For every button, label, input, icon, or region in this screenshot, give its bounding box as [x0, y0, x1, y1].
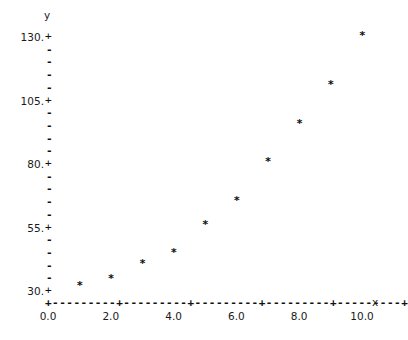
x-axis-title: x	[372, 297, 378, 308]
y-axis-tick-label: 80.	[6, 159, 44, 170]
y-axis-minor-tick: -	[46, 260, 53, 271]
x-axis-tick-label: 10.0	[342, 311, 382, 322]
data-point: *	[108, 273, 115, 284]
y-axis-tick-label: 55.	[6, 223, 44, 234]
data-point: *	[233, 195, 240, 206]
x-axis-line: +---------+---------+---------+---------…	[45, 297, 408, 308]
x-axis-tick-label: 4.0	[154, 311, 194, 322]
y-axis-title: y	[44, 10, 50, 21]
y-axis-minor-tick: -	[46, 82, 53, 93]
data-point: *	[202, 219, 209, 230]
data-point: *	[359, 30, 366, 41]
y-axis-minor-tick: -	[46, 171, 53, 182]
y-axis-minor-tick: -	[46, 107, 53, 118]
data-point: *	[328, 79, 335, 90]
y-axis-minor-tick: -	[46, 196, 53, 207]
data-point: *	[296, 118, 303, 129]
data-point: *	[139, 258, 146, 269]
y-axis-minor-tick: -	[46, 247, 53, 258]
x-axis-tick-label: 8.0	[279, 311, 319, 322]
y-axis-major-tick: +	[45, 285, 52, 296]
y-axis-minor-tick: -	[46, 209, 53, 220]
y-axis-minor-tick: -	[46, 183, 53, 194]
x-axis-tick-label: 2.0	[91, 311, 131, 322]
x-axis-tick-label: 6.0	[216, 311, 256, 322]
y-axis-minor-tick: -	[46, 272, 53, 283]
y-axis-major-tick: +	[45, 95, 52, 106]
x-axis-tick-label: 0.0	[28, 311, 68, 322]
y-axis-minor-tick: -	[46, 44, 53, 55]
y-axis-minor-tick: -	[46, 145, 53, 156]
data-point: *	[76, 280, 83, 291]
data-point: *	[265, 156, 272, 167]
y-axis-minor-tick: -	[46, 234, 53, 245]
y-axis-major-tick: +	[45, 222, 52, 233]
y-axis-minor-tick: -	[46, 56, 53, 67]
y-axis-tick-label: 130.	[6, 32, 44, 43]
y-axis-tick-label: 30.	[6, 286, 44, 297]
y-axis-minor-tick: -	[46, 69, 53, 80]
y-axis-tick-label: 105.	[6, 96, 44, 107]
y-axis-major-tick: +	[45, 158, 52, 169]
y-axis-major-tick: +	[45, 31, 52, 42]
data-point: *	[171, 247, 178, 258]
y-axis-minor-tick: -	[46, 133, 53, 144]
y-axis-minor-tick: -	[46, 120, 53, 131]
